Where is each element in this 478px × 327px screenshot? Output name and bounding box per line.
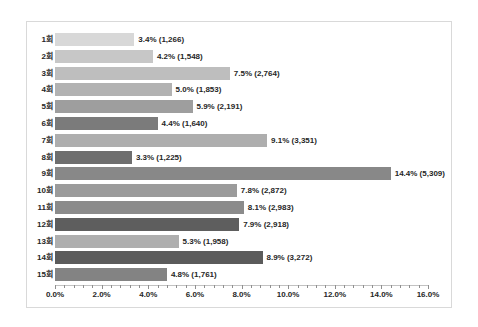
bar-row: 4회5.0% (1,853) bbox=[27, 83, 451, 96]
bar-row: 8회3.3% (1,225) bbox=[27, 151, 451, 164]
bar bbox=[55, 100, 193, 113]
category-label: 11회 bbox=[27, 201, 53, 214]
value-label: 5.9% (2,191) bbox=[197, 102, 243, 111]
x-axis-minor-tick bbox=[223, 285, 224, 288]
x-axis-major-tick bbox=[335, 285, 336, 289]
x-axis-minor-tick bbox=[279, 285, 280, 288]
bar bbox=[55, 67, 230, 80]
category-label: 14회 bbox=[27, 251, 53, 264]
bar-chart: 1회3.4% (1,266)2회4.2% (1,548)3회7.5% (2,76… bbox=[26, 21, 452, 308]
bar-row: 6회4.4% (1,640) bbox=[27, 117, 451, 130]
x-axis-minor-tick bbox=[204, 285, 205, 288]
bar bbox=[55, 167, 391, 180]
bar bbox=[55, 184, 237, 197]
category-label: 8회 bbox=[27, 151, 53, 164]
x-axis-major-tick bbox=[195, 285, 196, 289]
category-label: 2회 bbox=[27, 50, 53, 63]
category-label: 7회 bbox=[27, 134, 53, 147]
x-axis-minor-tick bbox=[325, 285, 326, 288]
bar-row: 3회7.5% (2,764) bbox=[27, 67, 451, 80]
x-axis-major-tick bbox=[428, 285, 429, 289]
x-axis-minor-tick bbox=[400, 285, 401, 288]
value-label: 4.4% (1,640) bbox=[162, 119, 208, 128]
x-axis-minor-tick bbox=[130, 285, 131, 288]
x-axis-major-tick bbox=[242, 285, 243, 289]
x-tick-label: 12.0% bbox=[323, 290, 346, 299]
x-axis-minor-tick bbox=[139, 285, 140, 288]
bar bbox=[55, 218, 239, 231]
value-label: 3.4% (1,266) bbox=[138, 35, 184, 44]
x-axis-minor-tick bbox=[353, 285, 354, 288]
value-label: 7.8% (2,872) bbox=[241, 186, 287, 195]
x-tick-label: 6.0% bbox=[186, 290, 204, 299]
x-axis-minor-tick bbox=[111, 285, 112, 288]
x-axis-minor-tick bbox=[186, 285, 187, 288]
bar-row: 15회4.8% (1,761) bbox=[27, 268, 451, 281]
category-label: 1회 bbox=[27, 33, 53, 46]
x-axis-major-tick bbox=[381, 285, 382, 289]
category-label: 3회 bbox=[27, 67, 53, 80]
x-axis-major-tick bbox=[55, 285, 56, 289]
category-label: 13회 bbox=[27, 235, 53, 248]
x-axis-minor-tick bbox=[298, 285, 299, 288]
value-label: 7.9% (2,918) bbox=[243, 220, 289, 229]
value-label: 14.4% (5,309) bbox=[395, 169, 445, 178]
x-tick-label: 0.0% bbox=[46, 290, 64, 299]
value-label: 9.1% (3,351) bbox=[271, 136, 317, 145]
x-axis-minor-tick bbox=[307, 285, 308, 288]
bar bbox=[55, 50, 153, 63]
x-axis-minor-tick bbox=[167, 285, 168, 288]
bar bbox=[55, 151, 132, 164]
bar bbox=[55, 117, 158, 130]
x-axis-minor-tick bbox=[74, 285, 75, 288]
x-axis-minor-tick bbox=[158, 285, 159, 288]
x-axis-major-tick bbox=[288, 285, 289, 289]
bar-row: 2회4.2% (1,548) bbox=[27, 50, 451, 63]
x-axis-minor-tick bbox=[176, 285, 177, 288]
bar bbox=[55, 268, 167, 281]
bar bbox=[55, 235, 179, 248]
x-tick-label: 14.0% bbox=[370, 290, 393, 299]
x-axis-major-tick bbox=[102, 285, 103, 289]
x-axis-minor-tick bbox=[270, 285, 271, 288]
bar-row: 7회9.1% (3,351) bbox=[27, 134, 451, 147]
x-tick-label: 10.0% bbox=[277, 290, 300, 299]
value-label: 8.1% (2,983) bbox=[248, 203, 294, 212]
bar bbox=[55, 33, 134, 46]
x-axis-minor-tick bbox=[391, 285, 392, 288]
x-axis-minor-tick bbox=[419, 285, 420, 288]
category-label: 9회 bbox=[27, 167, 53, 180]
bar bbox=[55, 83, 172, 96]
category-label: 5회 bbox=[27, 100, 53, 113]
bar-row: 13회5.3% (1,958) bbox=[27, 235, 451, 248]
bar-row: 5회5.9% (2,191) bbox=[27, 100, 451, 113]
bar-row: 14회8.9% (3,272) bbox=[27, 251, 451, 264]
category-label: 4회 bbox=[27, 83, 53, 96]
category-label: 15회 bbox=[27, 268, 53, 281]
page: 1회3.4% (1,266)2회4.2% (1,548)3회7.5% (2,76… bbox=[0, 0, 478, 327]
category-label: 6회 bbox=[27, 117, 53, 130]
x-axis-minor-tick bbox=[372, 285, 373, 288]
x-tick-label: 4.0% bbox=[139, 290, 157, 299]
bar bbox=[55, 134, 267, 147]
x-axis-minor-tick bbox=[260, 285, 261, 288]
bar-row: 10회7.8% (2,872) bbox=[27, 184, 451, 197]
x-axis-minor-tick bbox=[214, 285, 215, 288]
value-label: 3.3% (1,225) bbox=[136, 153, 182, 162]
value-label: 4.8% (1,761) bbox=[171, 270, 217, 279]
value-label: 7.5% (2,764) bbox=[234, 69, 280, 78]
x-axis-minor-tick bbox=[316, 285, 317, 288]
x-tick-label: 8.0% bbox=[232, 290, 250, 299]
bar-row: 12회7.9% (2,918) bbox=[27, 218, 451, 231]
x-axis-minor-tick bbox=[64, 285, 65, 288]
x-axis-minor-tick bbox=[409, 285, 410, 288]
bar bbox=[55, 251, 263, 264]
bar-row: 9회14.4% (5,309) bbox=[27, 167, 451, 180]
x-tick-label: 2.0% bbox=[92, 290, 110, 299]
value-label: 8.9% (3,272) bbox=[267, 253, 313, 262]
x-axis-minor-tick bbox=[120, 285, 121, 288]
bar-row: 1회3.4% (1,266) bbox=[27, 33, 451, 46]
bar-row: 11회8.1% (2,983) bbox=[27, 201, 451, 214]
x-axis-minor-tick bbox=[344, 285, 345, 288]
value-label: 4.2% (1,548) bbox=[157, 52, 203, 61]
